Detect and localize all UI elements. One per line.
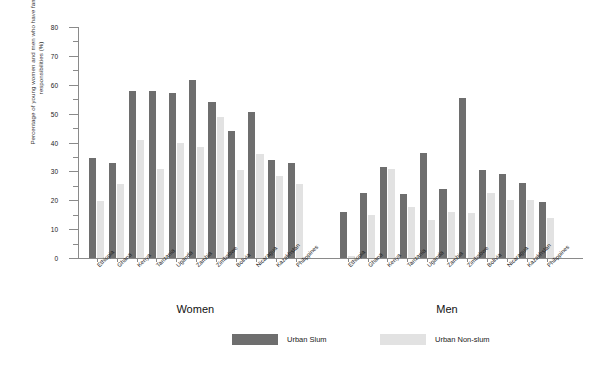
legend-label-urban-non-slum: Urban Non-slum <box>435 335 490 344</box>
y-tick-minor <box>73 215 78 216</box>
y-tick-label-50: 50 <box>51 110 58 117</box>
y-tick-80: 80 <box>69 27 78 28</box>
bar-urban-slum-women-ethiopia <box>89 158 96 258</box>
bar-urban-non-slum-women-kazakhstan <box>276 176 283 258</box>
legend-swatch-urban-non-slum <box>380 334 426 345</box>
bar-urban-non-slum-women-uganda <box>177 143 184 259</box>
y-tick-label-40: 40 <box>51 139 58 146</box>
y-tick-label-30: 30 <box>51 168 58 175</box>
bar-urban-slum-women-kazakhstan <box>268 160 275 258</box>
legend-swatch-urban-slum <box>232 334 278 345</box>
y-tick-minor <box>73 99 78 100</box>
y-tick-label-70: 70 <box>51 52 58 59</box>
bar-urban-non-slum-women-bolivia <box>237 170 244 258</box>
y-tick-label-20: 20 <box>51 197 58 204</box>
bar-urban-slum-men-zambia <box>439 189 446 258</box>
bar-urban-non-slum-men-kenya <box>388 169 395 259</box>
bar-urban-non-slum-men-tanzania <box>408 207 415 258</box>
bar-chart: Percentage of young women and men who ha… <box>0 0 602 369</box>
bar-urban-non-slum-men-philippines <box>547 218 554 258</box>
y-tick-30: 30 <box>69 171 78 172</box>
y-axis-title: Percentage of young women and men who ha… <box>29 0 45 163</box>
y-tick-50: 50 <box>69 114 78 115</box>
y-tick-minor <box>73 128 78 129</box>
y-tick-minor <box>73 186 78 187</box>
bar-urban-slum-women-zimbabwe <box>208 102 215 258</box>
bar-urban-slum-women-tanzania <box>149 91 156 258</box>
chart-legend: Urban Slum Urban Non-slum <box>0 334 602 350</box>
bar-urban-non-slum-women-tanzania <box>157 169 164 259</box>
bar-urban-slum-women-kenya <box>129 91 136 258</box>
legend-item-urban-non-slum: Urban Non-slum <box>380 334 490 345</box>
bar-urban-slum-men-zimbabwe <box>459 98 466 258</box>
y-tick-10: 10 <box>69 229 78 230</box>
bar-urban-non-slum-men-zimbabwe <box>468 213 475 258</box>
y-tick-70: 70 <box>69 56 78 57</box>
plot-area: 01020304050607080 <box>78 27 583 258</box>
bar-urban-non-slum-women-ethiopia <box>97 201 104 258</box>
bar-urban-slum-women-bolivia <box>228 131 235 258</box>
y-tick-40: 40 <box>69 143 78 144</box>
bar-urban-slum-men-nicaragua <box>499 174 506 258</box>
bar-urban-non-slum-women-zimbabwe <box>217 117 224 258</box>
bar-urban-slum-men-ethiopia <box>340 212 347 258</box>
y-tick-minor <box>73 244 78 245</box>
bar-urban-slum-men-tanzania <box>400 194 407 258</box>
y-tick-minor <box>73 41 78 42</box>
legend-item-urban-slum: Urban Slum <box>232 334 327 345</box>
y-tick-label-60: 60 <box>51 81 58 88</box>
bar-urban-non-slum-women-ghana <box>117 184 124 258</box>
y-tick-20: 20 <box>69 200 78 201</box>
bar-urban-slum-women-nicaragua <box>248 112 255 258</box>
bar-urban-non-slum-women-zambia <box>197 147 204 258</box>
bar-urban-slum-women-zambia <box>189 80 196 258</box>
y-tick-label-80: 80 <box>51 24 58 31</box>
bar-urban-non-slum-men-ghana <box>368 215 375 258</box>
y-tick-minor <box>73 157 78 158</box>
group-label-women: Women <box>176 303 214 315</box>
bar-urban-slum-women-uganda <box>169 93 176 258</box>
bar-urban-slum-men-uganda <box>420 153 427 258</box>
bar-urban-non-slum-men-nicaragua <box>507 200 514 258</box>
y-tick-label-10: 10 <box>51 226 58 233</box>
y-axis-line <box>78 27 79 258</box>
bar-urban-non-slum-men-uganda <box>428 220 435 258</box>
group-label-men: Men <box>436 303 457 315</box>
bar-urban-non-slum-men-zambia <box>448 212 455 258</box>
bar-urban-slum-women-ghana <box>109 163 116 258</box>
bar-urban-non-slum-women-kenya <box>137 140 144 258</box>
legend-label-urban-slum: Urban Slum <box>287 335 327 344</box>
bar-urban-slum-men-kenya <box>380 167 387 258</box>
y-tick-60: 60 <box>69 85 78 86</box>
bar-urban-non-slum-women-nicaragua <box>256 154 263 258</box>
y-tick-0: 0 <box>69 258 78 259</box>
y-tick-label-0: 0 <box>54 255 58 262</box>
y-tick-minor <box>73 70 78 71</box>
